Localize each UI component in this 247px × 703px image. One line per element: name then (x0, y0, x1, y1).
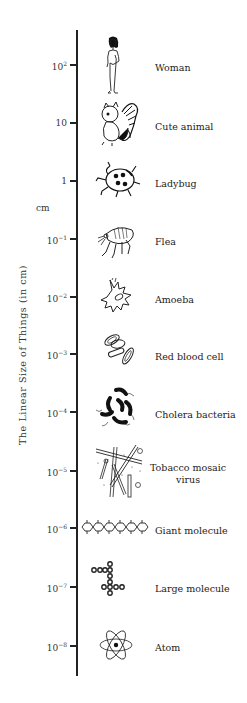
item-label-line: Tobacco mosaic (150, 462, 226, 474)
tick-mark (70, 180, 77, 182)
large-molecule-icon (88, 560, 148, 600)
atom-icon (88, 626, 148, 664)
tick-label: 10−7 (47, 581, 67, 594)
unit-label: cm (36, 203, 50, 213)
item-label-woman: Woman (155, 62, 191, 74)
item-label-amoeba: Amoeba (155, 294, 194, 306)
tobacco-mosaic-virus-icon (88, 441, 148, 503)
tick-label: 10−2 (47, 291, 67, 304)
tick-label: 10−3 (47, 348, 67, 361)
cholera-bacteria-icon (88, 384, 148, 434)
y-axis-label: The Linear Size of Things (in cm) (17, 265, 28, 445)
tick-label: 10−1 (47, 233, 67, 246)
item-label-atom: Atom (155, 642, 180, 654)
tick-label: 10−5 (47, 465, 67, 478)
tick-label: 1 (61, 176, 67, 186)
tick-label: 102 (52, 59, 67, 72)
woman-icon (88, 34, 148, 96)
item-label-large-molecule: Large molecule (155, 583, 230, 595)
item-label-red-blood-cell: Red blood cell (155, 351, 224, 363)
tick-mark (70, 296, 77, 298)
red-blood-cell-icon (88, 330, 148, 372)
tick-mark (70, 411, 77, 413)
ladybug-icon (88, 160, 148, 202)
tick-mark (70, 353, 77, 355)
item-label-cute-animal: Cute animal (155, 121, 213, 133)
tick-mark (70, 470, 77, 472)
tick-mark (70, 238, 77, 240)
flea-icon (88, 222, 148, 262)
tick-label: 10−8 (47, 640, 67, 653)
tick-mark (70, 122, 77, 124)
item-label-line: virus (150, 474, 226, 486)
tick-label: 10−4 (47, 406, 67, 419)
squirrel-icon (88, 100, 148, 150)
item-label-tobacco-mosaic-virus: Tobacco mosaic virus (150, 462, 226, 486)
item-label-giant-molecule: Giant molecule (155, 525, 228, 537)
tick-mark (70, 645, 77, 647)
tick-label: 10 (56, 118, 67, 128)
giant-molecule-icon (80, 518, 152, 536)
item-label-flea: Flea (155, 236, 176, 248)
tick-mark (70, 586, 77, 588)
tick-mark (70, 527, 77, 529)
item-label-ladybug: Ladybug (155, 178, 197, 190)
tick-label: 10−6 (47, 522, 67, 535)
amoeba-icon (88, 276, 148, 318)
tick-mark (70, 64, 77, 66)
item-label-cholera-bacteria: Cholera bacteria (155, 409, 236, 421)
